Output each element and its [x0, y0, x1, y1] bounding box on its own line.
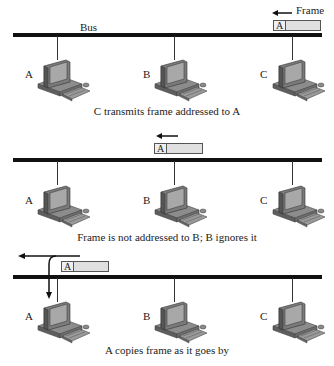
frame: A	[273, 20, 321, 31]
node-label-a: A	[25, 310, 33, 322]
computer-b-icon	[153, 296, 209, 344]
caption: Frame is not addressed to B; B ignores i…	[0, 231, 334, 243]
node-label-b: B	[143, 68, 150, 80]
node-label-c: C	[260, 194, 267, 206]
node-label-c: C	[260, 310, 267, 322]
computer-a-icon	[36, 180, 92, 228]
bus-line	[13, 33, 322, 37]
bus-label: Bus	[80, 21, 97, 33]
computer-c-icon	[271, 180, 327, 228]
frame: A	[154, 143, 203, 154]
computer-c-icon	[271, 54, 327, 102]
frame-address: A	[62, 262, 74, 271]
node-label-a: A	[25, 194, 33, 206]
computer-a-icon	[36, 296, 92, 344]
caption: C transmits frame addressed to A	[0, 105, 334, 117]
bus-line	[13, 158, 322, 162]
frame-address: A	[274, 21, 286, 30]
computer-c-icon	[271, 296, 327, 344]
arrow-left-icon	[156, 132, 180, 140]
arrow-left-icon	[272, 9, 294, 17]
computer-b-icon	[153, 54, 209, 102]
frame-label: Frame	[296, 4, 324, 16]
frame: A	[61, 261, 109, 272]
node-label-c: C	[260, 68, 267, 80]
frame-address: A	[155, 144, 167, 153]
node-label-b: B	[143, 310, 150, 322]
computer-a-icon	[36, 54, 92, 102]
bus-line	[13, 275, 322, 279]
caption: A copies frame as it goes by	[0, 344, 334, 356]
node-label-a: A	[25, 68, 33, 80]
computer-b-icon	[153, 180, 209, 228]
node-label-b: B	[143, 194, 150, 206]
